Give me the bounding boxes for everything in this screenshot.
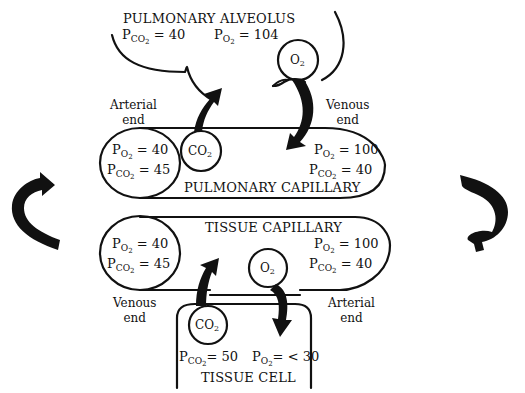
alveolus-pco2: PCO2 = 40 [122,28,185,46]
tissue-cell-co2-label: CO2 [195,319,219,333]
tissue-venous-end-label: Venousend [113,296,157,326]
tissue-cell-po2: PO2= < 30 [252,350,319,368]
tissue-left-pco2: PCO2 = 45 [107,257,170,275]
alveolus-o2-label: O2 [290,54,305,68]
tissue-right-po2: PO2 = 100 [314,237,379,255]
tissue-arterial-end-label: Arterialend [328,296,375,326]
gas-exchange-diagram: PULMONARY ALVEOLUS PCO2 = 40 PO2 = 104 O… [0,0,525,393]
right-circulation-arrow [460,175,508,252]
pulmonary-left-pco2: PCO2 = 45 [107,163,170,181]
left-circulation-arrow [12,172,60,250]
tissue-cell-title: TISSUE CELL [201,371,296,384]
pulmonary-capillary-title: PULMONARY CAPILLARY [184,181,361,194]
pulmonary-venous-end-label: Venousend [326,98,370,128]
tissue-capillary-o2-label: O2 [260,262,275,276]
co2-to-capillary-arrow [196,258,219,306]
diagram-drawing [0,0,525,393]
pulmonary-right-pco2: PCO2 = 40 [309,163,372,181]
o2-to-cell-arrow [270,284,292,337]
pulmonary-co2-label: CO2 [188,145,212,159]
tissue-right-pco2: PCO2 = 40 [309,257,372,275]
pulmonary-arterial-end-label: Arterialend [110,98,157,128]
tissue-cell-pco2: PCO2= 50 [179,350,238,368]
co2-to-alveolus-arrow [194,88,222,132]
pulmonary-right-po2: PO2 = 100 [314,143,379,161]
pulmonary-left-po2: PO2 = 40 [112,143,168,161]
tissue-capillary-title: TISSUE CAPILLARY [205,221,342,234]
alveolus-po2: PO2 = 104 [214,28,279,46]
tissue-left-po2: PO2 = 40 [112,237,168,255]
o2-to-capillary-arrow [286,80,313,150]
alveolus-title: PULMONARY ALVEOLUS [123,12,295,25]
